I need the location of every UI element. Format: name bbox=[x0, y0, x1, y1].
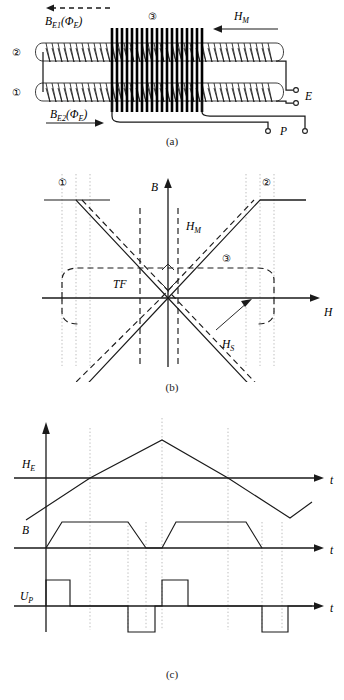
laminated-core bbox=[112, 28, 202, 112]
caption-b: (b) bbox=[0, 381, 344, 393]
hm-label: HM bbox=[233, 10, 250, 25]
terminal-p-left bbox=[266, 129, 271, 134]
terminal-e-label: E bbox=[304, 90, 312, 102]
caption-a: (a) bbox=[0, 135, 344, 147]
vertical-axis-arrowhead bbox=[42, 422, 50, 434]
he-axis-arrowhead bbox=[314, 474, 324, 482]
coil-label-two: ② bbox=[12, 47, 21, 58]
caption-c: (c) bbox=[0, 668, 344, 680]
flux-bottom-arrow bbox=[46, 119, 104, 127]
terminal-e-top bbox=[294, 88, 299, 93]
annotation-tf: TF bbox=[113, 278, 127, 290]
terminal-e-leads bbox=[276, 61, 298, 105]
coil-winding-one bbox=[36, 83, 284, 102]
annotation-branch-two: ② bbox=[262, 177, 271, 188]
hm-arrow bbox=[213, 25, 278, 33]
core-label-three: ③ bbox=[148, 11, 157, 22]
axis-label-h: H bbox=[323, 306, 333, 318]
annotation-hm: HM bbox=[185, 220, 202, 235]
terminal-e-bottom bbox=[294, 101, 299, 106]
panel-a-sensor-construction: BE1(ΦE) ③ HM ② ① bbox=[0, 0, 344, 135]
label-he: HE bbox=[21, 458, 35, 473]
label-up: UP bbox=[20, 590, 33, 605]
panel-b-bh-curve: B H ① ② ③ TF bbox=[0, 152, 344, 382]
branch-ascending-dashed bbox=[62, 200, 254, 382]
timing-guides bbox=[90, 418, 282, 630]
trace-up bbox=[14, 580, 324, 632]
axis-label-t-he: t bbox=[330, 474, 334, 486]
up-axis-arrowhead bbox=[314, 602, 324, 610]
axes bbox=[42, 178, 320, 367]
flux-top-label: BE1(ΦE) bbox=[45, 15, 82, 30]
he-waveform bbox=[26, 440, 312, 520]
b-waveform bbox=[46, 522, 262, 548]
coil-winding-two bbox=[36, 43, 284, 62]
annotation-branch-one: ① bbox=[58, 177, 67, 188]
axis-label-t-up: t bbox=[330, 602, 334, 614]
trace-b bbox=[14, 522, 324, 552]
annotation-hs: HS bbox=[221, 338, 234, 353]
coil-label-one: ① bbox=[12, 87, 21, 98]
panel-c-waveforms: HE t B t UP t bbox=[0, 400, 344, 662]
hs-pointer bbox=[216, 299, 252, 330]
flux-bottom-label: BE2(ΦE) bbox=[50, 108, 87, 123]
axis-label-b: B bbox=[151, 181, 158, 193]
branch-ascending-solid bbox=[44, 200, 306, 382]
b-axis-arrowhead bbox=[164, 178, 172, 188]
trace-he bbox=[14, 440, 324, 520]
flux-top-arrow bbox=[46, 5, 110, 12]
axis-label-t-b: t bbox=[330, 544, 334, 556]
label-b-c: B bbox=[22, 524, 29, 536]
terminal-p-label: P bbox=[279, 125, 287, 135]
terminal-p-right bbox=[303, 129, 308, 134]
h-axis-arrowhead bbox=[310, 294, 320, 302]
b-axis-arrowhead-c bbox=[314, 544, 324, 552]
annotation-branch-three: ③ bbox=[222, 253, 231, 264]
figure-root: BE1(ΦE) ③ HM ② ① bbox=[0, 0, 344, 700]
